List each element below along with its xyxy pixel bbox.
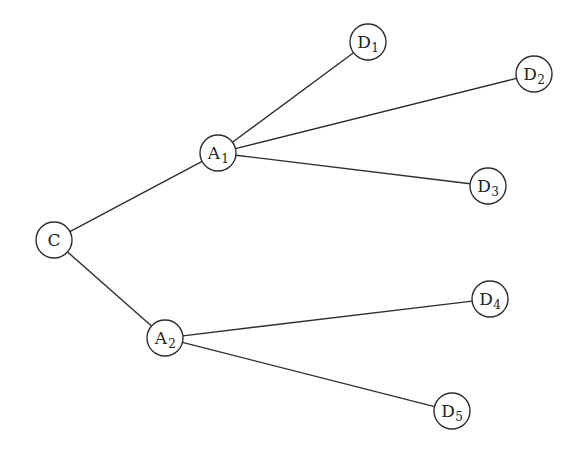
edge-a2-d5 xyxy=(182,342,434,406)
node-label: D xyxy=(479,289,493,309)
node-d2: D2 xyxy=(516,56,552,92)
edge-a1-d3 xyxy=(236,155,470,184)
edge-c-a2 xyxy=(67,252,151,326)
node-subscript: 1 xyxy=(221,152,229,166)
edge-c-a1 xyxy=(70,161,202,231)
node-d4: D4 xyxy=(472,281,508,317)
node-label: D xyxy=(523,64,537,84)
node-label: A xyxy=(207,143,221,163)
node-subscript: 2 xyxy=(168,337,176,351)
edges-layer xyxy=(67,53,516,407)
tree-diagram: CA1A2D1D2D3D4D5 xyxy=(0,0,580,454)
node-d5: D5 xyxy=(434,393,470,429)
nodes-layer: CA1A2D1D2D3D4D5 xyxy=(36,24,552,429)
node-label: C xyxy=(47,230,60,250)
node-d3: D3 xyxy=(470,168,506,204)
node-d1: D1 xyxy=(350,24,386,60)
node-subscript: 2 xyxy=(537,73,545,87)
node-a2: A2 xyxy=(147,320,183,356)
edge-a2-d4 xyxy=(183,301,472,336)
node-subscript: 3 xyxy=(491,185,499,199)
node-subscript: 4 xyxy=(493,298,501,312)
node-label: D xyxy=(357,32,371,52)
node-a1: A1 xyxy=(200,135,236,171)
node-label: D xyxy=(477,176,491,196)
node-label: A xyxy=(154,328,168,348)
node-subscript: 5 xyxy=(455,410,463,424)
node-c: C xyxy=(36,222,72,258)
node-label: D xyxy=(441,401,455,421)
node-subscript: 1 xyxy=(371,41,379,55)
edge-a1-d2 xyxy=(235,78,516,148)
edge-a1-d1 xyxy=(232,53,353,143)
